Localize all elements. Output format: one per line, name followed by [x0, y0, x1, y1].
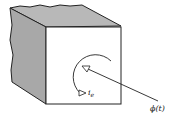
current-label: ie [88, 88, 94, 98]
flux-label: ϕ(t) [150, 104, 165, 113]
current-subscript: e [91, 91, 95, 98]
eddy-current-block-diagram [0, 0, 176, 121]
